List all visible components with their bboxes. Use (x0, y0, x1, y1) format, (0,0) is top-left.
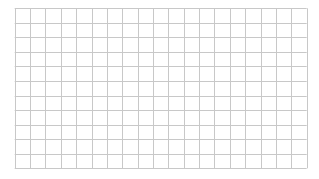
grid-lines (0, 0, 319, 179)
grid-paper (0, 0, 319, 179)
